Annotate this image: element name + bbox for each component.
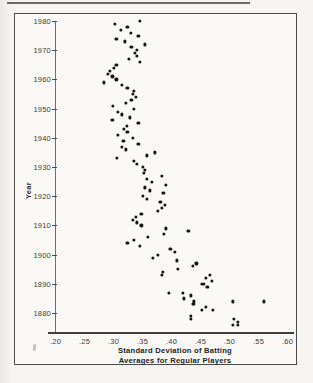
y-tick-mark [52, 284, 57, 285]
y-tick-mark [52, 313, 57, 314]
data-point [125, 125, 128, 128]
data-point [160, 174, 163, 177]
data-point [128, 57, 131, 60]
data-point [162, 192, 165, 195]
data-point [153, 151, 156, 154]
data-point [128, 116, 131, 119]
data-point [122, 139, 125, 142]
figure-frame: 1980197019601950194019301920191019001890… [14, 13, 297, 365]
data-point [159, 200, 162, 203]
data-point [145, 198, 148, 201]
data-point [115, 37, 118, 40]
data-point [205, 276, 208, 279]
y-tick-mark [52, 255, 57, 256]
scan-smudge [33, 344, 37, 351]
x-tick-label: .45 [190, 337, 212, 346]
data-point [187, 230, 190, 233]
data-point [113, 22, 116, 25]
data-point [131, 136, 134, 139]
data-point [233, 317, 236, 320]
data-point [103, 81, 106, 84]
x-axis-title: Standard Deviation of Batting Averages f… [55, 346, 295, 365]
data-point [204, 306, 207, 309]
y-tick-mark [52, 79, 57, 80]
data-point [123, 40, 126, 43]
y-tick-mark [52, 167, 57, 168]
data-point [111, 75, 114, 78]
data-point [126, 87, 129, 90]
x-axis-title-line2: Averages for Regular Players [55, 356, 295, 366]
data-point [125, 101, 128, 104]
y-tick-mark [52, 109, 57, 110]
data-point [195, 262, 198, 265]
x-axis-title-line1: Standard Deviation of Batting [55, 346, 295, 356]
data-point [176, 268, 179, 271]
data-point [126, 241, 129, 244]
scan-artifact-line [7, 2, 250, 4]
data-point [162, 233, 165, 236]
data-point [135, 162, 138, 165]
data-point [236, 323, 239, 326]
x-tick-label: .55 [248, 337, 270, 346]
data-point [201, 308, 204, 311]
data-point [137, 142, 140, 145]
data-point [173, 250, 176, 253]
data-point [137, 122, 140, 125]
y-tick-label: 1910 [25, 221, 51, 230]
data-point [120, 145, 123, 148]
data-point [160, 273, 163, 276]
y-tick-label: 1940 [25, 134, 51, 143]
data-point [145, 154, 148, 157]
y-tick-label: 1890 [25, 280, 51, 289]
x-tick-label: .20 [45, 337, 67, 346]
data-point [143, 43, 146, 46]
data-point [138, 19, 141, 22]
data-point [168, 291, 171, 294]
scatter-plot: 1980197019601950194019301920191019001890… [15, 14, 296, 364]
data-point [143, 186, 146, 189]
data-point [132, 107, 135, 110]
data-point [111, 104, 114, 107]
data-point [126, 130, 129, 133]
x-tick-label: .30 [103, 337, 125, 346]
data-point [119, 28, 122, 31]
data-point [161, 206, 164, 209]
data-point [169, 247, 172, 250]
y-tick-mark [52, 138, 57, 139]
data-point [136, 54, 139, 57]
data-point [132, 238, 135, 241]
y-tick-label: 1880 [25, 309, 51, 318]
data-point [145, 177, 148, 180]
x-tick-label: .35 [132, 337, 154, 346]
data-point [210, 279, 213, 282]
y-tick-label: 1930 [25, 163, 51, 172]
x-tick-label: .50 [219, 337, 241, 346]
data-point [111, 119, 114, 122]
data-point [126, 25, 129, 28]
y-axis-title: Year [24, 176, 33, 206]
data-point [182, 297, 185, 300]
y-tick-mark [52, 225, 57, 226]
y-tick-label: 1900 [25, 251, 51, 260]
y-axis [55, 21, 56, 332]
data-point [120, 84, 123, 87]
data-point [231, 323, 234, 326]
data-point [138, 60, 141, 63]
data-point [140, 212, 143, 215]
y-tick-mark [52, 50, 57, 51]
data-point [189, 294, 192, 297]
data-point [191, 265, 194, 268]
x-axis [48, 332, 294, 334]
data-point [137, 34, 140, 37]
data-point [208, 273, 211, 276]
y-tick-label: 1960 [25, 75, 51, 84]
data-point [206, 285, 209, 288]
y-tick-label: 1980 [25, 17, 51, 26]
y-tick-label: 1970 [25, 46, 51, 55]
data-point [190, 317, 193, 320]
data-point [130, 46, 133, 49]
data-point [181, 291, 184, 294]
x-tick-label: .40 [161, 337, 183, 346]
data-point [115, 157, 118, 160]
y-tick-mark [52, 21, 57, 22]
